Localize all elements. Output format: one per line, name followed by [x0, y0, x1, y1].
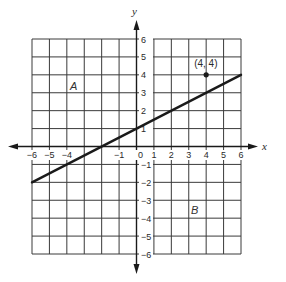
y-axis-up-arrow-icon — [134, 20, 140, 30]
y-axis-down-arrow-icon — [134, 264, 140, 274]
y-tick-label: 2 — [141, 106, 146, 116]
y-tick-label: −6 — [141, 250, 151, 260]
x-tick-label: 1 — [151, 150, 156, 160]
y-tick-label: −5 — [141, 232, 151, 242]
x-tick-label: −5 — [44, 150, 54, 160]
y-tick-label: 6 — [141, 35, 146, 45]
x-tick-label: −6 — [27, 150, 37, 160]
x-tick-label: 3 — [186, 150, 191, 160]
y-tick-label: 3 — [141, 88, 146, 98]
region-a-label: A — [69, 80, 77, 92]
x-tick-label: 2 — [169, 150, 174, 160]
x-axis-right-arrow-icon — [248, 144, 258, 150]
y-axis-label: y — [131, 5, 137, 17]
x-axis-left-arrow-icon — [8, 144, 18, 150]
y-tick-label: −1 — [141, 160, 151, 170]
x-tick-label: −1 — [114, 150, 124, 160]
y-tick-label: −3 — [141, 196, 151, 206]
y-tick-label: −2 — [141, 178, 151, 188]
y-tick-label: 5 — [141, 52, 146, 62]
y-tick-label: 4 — [141, 70, 146, 80]
x-tick-label: 0 — [138, 150, 143, 160]
x-tick-label: 4 — [204, 150, 209, 160]
point-marker — [204, 72, 209, 77]
region-b-label: B — [191, 204, 198, 216]
x-tick-label: 5 — [221, 150, 226, 160]
coordinate-plane: x y −6−5−4−10123456 654321−1−2−3−4−5−6 (… — [0, 0, 286, 282]
x-tick-label: −4 — [62, 150, 72, 160]
x-axis-label: x — [261, 140, 267, 152]
x-tick-label: 6 — [238, 150, 243, 160]
y-tick-label: −4 — [141, 214, 151, 224]
x-tick-labels: −6−5−4−10123456 — [26, 150, 247, 160]
point-label: (4, 4) — [194, 58, 217, 69]
